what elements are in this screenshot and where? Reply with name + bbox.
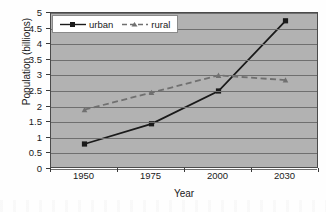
x-axis-tick-mark <box>184 168 185 172</box>
y-axis-tick-label: 3.5 <box>29 53 42 64</box>
gridline <box>51 13 317 14</box>
legend-label-urban: urban <box>89 19 113 30</box>
legend-entry-rural[interactable]: rural <box>122 19 170 30</box>
gridline <box>51 122 317 123</box>
y-axis-tick-label: 2.5 <box>29 85 42 96</box>
series-line-rural <box>85 75 286 109</box>
plot-area <box>50 12 318 168</box>
chart-legend: urban rural <box>52 15 178 33</box>
x-axis-tick-labels: 1950197520002030 <box>50 170 318 186</box>
x-axis-tick-mark <box>318 168 319 172</box>
y-axis-tick-label: 1.5 <box>29 116 42 127</box>
series-line-urban <box>85 21 286 144</box>
y-axis-tick-label: 3 <box>37 69 42 80</box>
gridline <box>51 138 317 139</box>
y-axis-tick-label: 0.5 <box>29 147 42 158</box>
y-axis-tick-labels: 00.511.522.533.544.55 <box>0 0 46 212</box>
legend-swatch-urban-icon <box>60 20 86 29</box>
legend-entry-urban[interactable]: urban <box>60 19 113 30</box>
scan-noise-artifact <box>0 200 326 212</box>
x-axis-tick-label: 2000 <box>207 170 228 181</box>
x-axis-title: Year <box>50 188 318 199</box>
gridline <box>51 44 317 45</box>
legend-swatch-rural-icon <box>122 20 148 29</box>
y-axis-tick-label: 5 <box>37 7 42 18</box>
gridline <box>51 60 317 61</box>
x-axis-tick-label: 1950 <box>73 170 94 181</box>
gridline <box>51 153 317 154</box>
gridline <box>51 107 317 108</box>
data-point-marker-urban <box>82 141 87 146</box>
y-axis-tick-label: 1 <box>37 131 42 142</box>
x-axis-tick-mark <box>117 168 118 172</box>
gridline <box>51 75 317 76</box>
population-line-chart: Population (billions) 00.511.522.533.544… <box>0 0 326 212</box>
x-axis-tick-mark <box>50 168 51 172</box>
y-axis-tick-label: 4.5 <box>29 22 42 33</box>
data-point-marker-urban <box>283 18 288 23</box>
x-axis-tick-mark <box>251 168 252 172</box>
y-axis-tick-label: 0 <box>37 163 42 174</box>
y-axis-tick-label: 4 <box>37 38 42 49</box>
x-axis-tick-label: 1975 <box>140 170 161 181</box>
legend-label-rural: rural <box>151 19 170 30</box>
y-axis-tick-label: 2 <box>37 100 42 111</box>
gridline <box>51 91 317 92</box>
x-axis-tick-label: 2030 <box>274 170 295 181</box>
